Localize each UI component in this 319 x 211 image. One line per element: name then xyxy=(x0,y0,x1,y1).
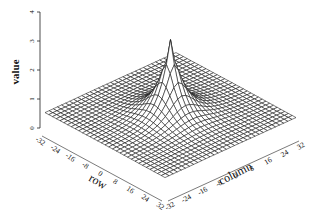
value-tick-label: 2 xyxy=(28,68,36,72)
row-tick-label: 24 xyxy=(140,192,152,204)
value-tick-label: 3 xyxy=(28,39,36,43)
surface-plot: 01234 -32-24-16-808162432 -32-24-16-8081… xyxy=(0,0,319,211)
column-tick-label: -24 xyxy=(180,192,193,205)
value-tick-label: 1 xyxy=(28,97,36,101)
row-axis-label: row xyxy=(86,171,109,193)
value-axis-label: value xyxy=(9,59,21,84)
row-tick-label: 16 xyxy=(125,184,137,196)
value-axis: 01234 xyxy=(28,10,40,130)
column-tick-label: -16 xyxy=(196,184,209,197)
value-tick-label: 0 xyxy=(28,126,36,130)
value-tick-label: 4 xyxy=(28,10,36,14)
row-tick-label: -8 xyxy=(80,160,90,171)
surface-plot-canvas: 01234 -32-24-16-808162432 -32-24-16-8081… xyxy=(0,0,319,211)
column-axis-label: column xyxy=(216,159,254,188)
row-tick-label: 8 xyxy=(111,177,119,187)
wireframe-mesh xyxy=(45,40,296,178)
row-tick-label: -32 xyxy=(34,134,48,147)
column-tick-label: -32 xyxy=(163,199,176,211)
row-tick-label: -16 xyxy=(64,151,78,164)
row-tick-label: -24 xyxy=(49,143,63,156)
